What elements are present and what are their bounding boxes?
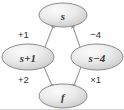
node-top: s bbox=[39, 3, 87, 27]
node-top-label: s bbox=[60, 10, 65, 22]
edge-right-to-top bbox=[72, 24, 80, 47]
node-right: s−4 bbox=[71, 44, 123, 70]
edge-left-to-top bbox=[45, 24, 54, 47]
node-left-label: s+1 bbox=[19, 52, 37, 64]
edge-label-left-to-top: +1 bbox=[18, 29, 29, 40]
edge-label-left-to-bottom: +2 bbox=[18, 74, 29, 85]
node-left: s+1 bbox=[2, 44, 54, 70]
edge-label-right-to-bottom: ×1 bbox=[90, 74, 101, 85]
edge-label-right-to-top: −4 bbox=[90, 29, 101, 40]
node-right-label: s−4 bbox=[87, 52, 105, 64]
node-bottom: f bbox=[39, 84, 87, 108]
edge-left-to-bottom bbox=[44, 67, 53, 88]
diagram-svg: +1 −4 +2 ×1 s s+1 s−4 f bbox=[0, 0, 124, 110]
lattice-diagram: +1 −4 +2 ×1 s s+1 s−4 f bbox=[0, 0, 124, 110]
